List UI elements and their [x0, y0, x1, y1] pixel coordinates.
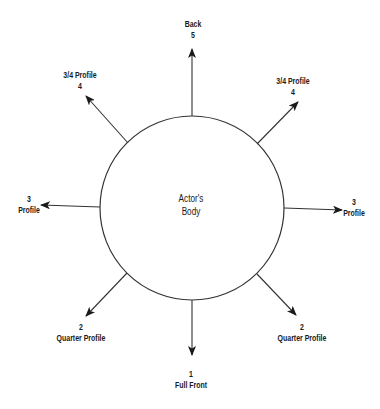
label-three-quarter-right: 3/4 Profile 4: [276, 76, 309, 98]
label-quarter-right: 2 Quarter Profile: [278, 322, 327, 344]
label-quarter-left: 2 Quarter Profile: [57, 322, 106, 344]
center-label-line2: Body: [179, 205, 204, 218]
profile-right-arrow: [284, 208, 342, 210]
three-quarter-left-arrow: [86, 96, 128, 143]
label-back-number: 5: [185, 30, 202, 41]
label-full-front-number: 1: [175, 369, 207, 380]
label-three-quarter-left-name: 3/4 Profile: [63, 70, 96, 81]
label-full-front-name: Full Front: [175, 380, 207, 391]
center-label: Actor's Body: [179, 192, 204, 218]
label-full-front: 1 Full Front: [175, 369, 207, 391]
label-profile-right: 3 Profile: [343, 197, 365, 219]
quarter-left-arrow: [86, 273, 127, 316]
label-profile-right-name: Profile: [343, 208, 365, 219]
label-profile-right-number: 3: [343, 197, 365, 208]
label-three-quarter-left-number: 4: [63, 81, 96, 92]
label-back: Back 5: [185, 19, 202, 41]
label-back-name: Back: [185, 19, 202, 30]
label-profile-left: 3 Profile: [18, 194, 40, 216]
label-three-quarter-right-number: 4: [276, 87, 309, 98]
label-profile-left-number: 3: [18, 194, 40, 205]
label-quarter-left-number: 2: [57, 322, 106, 333]
label-three-quarter-left: 3/4 Profile 4: [63, 70, 96, 92]
label-quarter-left-name: Quarter Profile: [57, 333, 106, 344]
three-quarter-right-arrow: [257, 102, 298, 144]
label-quarter-right-number: 2: [278, 322, 327, 333]
quarter-right-arrow: [257, 274, 296, 315]
label-three-quarter-right-name: 3/4 Profile: [276, 76, 309, 87]
center-label-line1: Actor's: [179, 192, 204, 205]
label-profile-left-name: Profile: [18, 205, 40, 216]
profile-left-arrow: [41, 205, 100, 207]
label-quarter-right-name: Quarter Profile: [278, 333, 327, 344]
